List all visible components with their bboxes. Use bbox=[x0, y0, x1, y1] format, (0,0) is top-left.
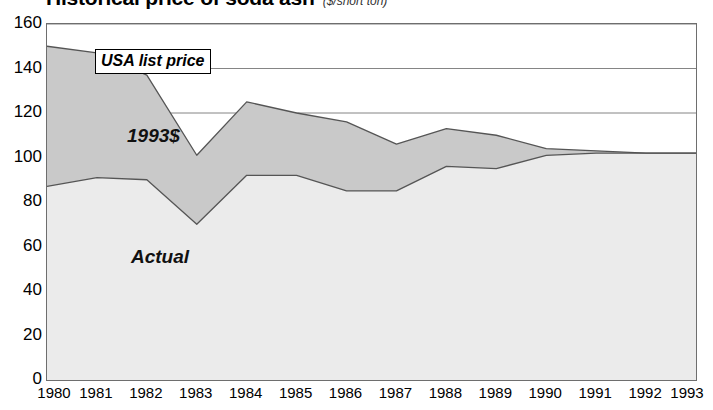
x-axis-tick-label: 1990 bbox=[529, 384, 562, 401]
chart-svg bbox=[47, 24, 696, 380]
plot-area: USA list price 1993$ Actual bbox=[46, 23, 697, 381]
x-axis-tick-label: 1982 bbox=[129, 384, 162, 401]
y-axis: 160140120100806040200 bbox=[0, 23, 42, 381]
x-axis-tick-label: 1992 bbox=[628, 384, 661, 401]
x-axis-tick-label: 1991 bbox=[578, 384, 611, 401]
label-1993-dollars: 1993$ bbox=[127, 125, 180, 147]
y-axis-tick-label: 140 bbox=[2, 58, 42, 78]
y-axis-tick-label: 160 bbox=[2, 13, 42, 33]
x-axis-tick-label: 1980 bbox=[37, 384, 70, 401]
y-axis-tick-label: 80 bbox=[2, 191, 42, 211]
chart-page: Historical price of soda ash ($/short to… bbox=[0, 0, 713, 410]
chart-title-row: Historical price of soda ash ($/short to… bbox=[46, 0, 387, 10]
x-axis-tick-label: 1981 bbox=[79, 384, 112, 401]
x-axis-tick-label: 1986 bbox=[329, 384, 362, 401]
x-axis-tick-label: 1985 bbox=[279, 384, 312, 401]
y-axis-tick-label: 40 bbox=[2, 280, 42, 300]
x-axis-tick-label: 1983 bbox=[179, 384, 212, 401]
x-axis: 1980198119821983198419851986198719881989… bbox=[46, 384, 697, 408]
chart-subtitle: ($/short ton) bbox=[323, 0, 388, 8]
x-axis-tick-label: 1989 bbox=[479, 384, 512, 401]
x-axis-tick-label: 1993 bbox=[670, 384, 703, 401]
x-axis-tick-label: 1988 bbox=[429, 384, 462, 401]
y-axis-tick-label: 60 bbox=[2, 236, 42, 256]
y-axis-tick-label: 0 bbox=[2, 369, 42, 389]
page-title: Historical price of soda ash bbox=[46, 0, 315, 10]
y-axis-tick-label: 20 bbox=[2, 325, 42, 345]
legend-usa-list-price: USA list price bbox=[95, 49, 211, 74]
y-axis-tick-label: 100 bbox=[2, 147, 42, 167]
y-axis-tick-label: 120 bbox=[2, 102, 42, 122]
x-axis-tick-label: 1987 bbox=[379, 384, 412, 401]
x-axis-tick-label: 1984 bbox=[229, 384, 262, 401]
label-actual: Actual bbox=[131, 246, 189, 268]
